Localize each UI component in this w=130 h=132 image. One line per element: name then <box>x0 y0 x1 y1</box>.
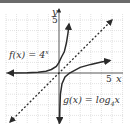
f-label: f(x) = 4x <box>8 48 49 60</box>
f-label-main: f(x) = 4 <box>8 49 45 60</box>
x-tick-5: 5 <box>106 74 112 84</box>
grid <box>6 14 123 124</box>
x-axis-label: x <box>116 73 122 84</box>
g-label-tail: x <box>115 94 121 105</box>
identity-line <box>10 20 112 122</box>
graph: y 5 5 x f(x) = 4x g(x) = log4x <box>0 0 130 132</box>
y-tick-5: 5 <box>52 15 58 25</box>
g-label-main: g(x) = log <box>63 94 111 105</box>
g-label: g(x) = log4x <box>63 94 121 107</box>
g-curve <box>60 61 110 124</box>
